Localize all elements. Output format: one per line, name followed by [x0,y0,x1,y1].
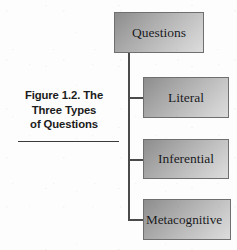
node-metacognitive: Metacognitive [143,199,231,240]
figure-caption-line-2: Three Types [8,103,120,118]
figure-container: Figure 1.2. The Three Types of Questions… [0,0,237,250]
figure-caption: Figure 1.2. The Three Types of Questions [8,88,120,132]
figure-caption-rule [18,141,119,142]
figure-caption-line-3: of Questions [8,117,120,132]
node-inferential: Inferential [143,139,229,179]
node-literal-label: Literal [168,90,204,106]
node-inferential-label: Inferential [158,151,214,167]
node-questions: Questions [114,12,204,53]
figure-caption-line-1: Figure 1.2. The [8,88,120,103]
connector-stub-literal [128,97,144,99]
connector-stub-metacognitive [128,219,144,221]
node-metacognitive-label: Metacognitive [146,212,222,228]
connector-trunk-vertical [128,53,130,220]
node-questions-label: Questions [132,25,186,41]
connector-stub-inferential [128,159,144,161]
node-literal: Literal [143,77,229,118]
